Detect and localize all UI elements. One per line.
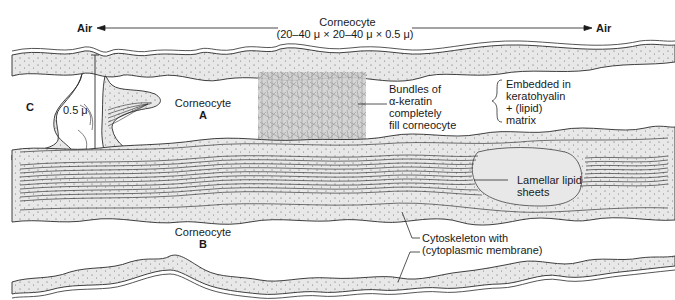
matrix-line-4: matrix: [506, 114, 571, 126]
lamellar-label: Lamellar lipid sheets: [517, 174, 582, 198]
corneocyte-a-label: Corneocyte A: [168, 97, 238, 121]
corneocyte-a-title: Corneocyte: [168, 97, 238, 109]
keratin-line-3: completely: [389, 107, 456, 119]
title-line2: (20–40 μ × 20–40 μ × 0.5 μ): [270, 28, 420, 40]
keratin-line-4: fill corneocyte: [389, 119, 456, 131]
cytoskeleton-label: Cytoskeleton with (cytoplasmic membrane): [422, 232, 542, 256]
corneocyte-b-title: Corneocyte: [168, 226, 238, 238]
matrix-line-3: + (lipid): [506, 102, 571, 114]
lower-cell-membrane: [12, 255, 675, 298]
corneocyte-a-letter: A: [168, 109, 238, 121]
lamellar-line-2: sheets: [517, 186, 582, 198]
cytoskeleton-line-1: Cytoskeleton with: [422, 232, 542, 244]
corneocyte-b-letter: B: [168, 238, 238, 250]
matrix-line-1: Embedded in: [506, 78, 571, 90]
keratin-line-2: α-keratin: [389, 95, 456, 107]
lamellar-line-1: Lamellar lipid: [517, 174, 582, 186]
cell-c-projection: [12, 74, 82, 160]
cell-c-label: C: [26, 101, 34, 113]
air-label-right: Air: [596, 22, 611, 34]
corneocyte-b-label: Corneocyte B: [168, 226, 238, 250]
stratum-corneum-diagram: [0, 0, 675, 300]
thickness-label: 0.5 μ: [63, 104, 88, 116]
keratin-line-1: Bundles of: [389, 83, 456, 95]
cytoskeleton-line-2: (cytoplasmic membrane): [422, 244, 542, 256]
title-line1: Corneocyte: [285, 16, 410, 28]
matrix-line-2: keratohyalin: [506, 90, 571, 102]
air-label-left: Air: [77, 22, 92, 34]
cytoskeleton-leader-lines: [398, 212, 420, 282]
keratin-label: Bundles of α-keratin completely fill cor…: [389, 83, 456, 131]
matrix-brace: [492, 80, 502, 122]
matrix-label: Embedded in keratohyalin + (lipid) matri…: [506, 78, 571, 126]
